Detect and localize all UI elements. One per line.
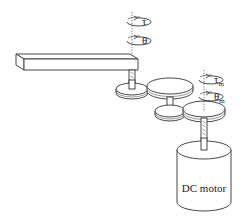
motor-angle-subscript: m <box>219 97 225 105</box>
output-torque-rotation-icon <box>127 16 151 26</box>
gear-3 <box>155 105 185 121</box>
arm-link <box>16 54 138 70</box>
motor-shaft <box>201 118 207 140</box>
motor-label: DC motor <box>182 182 227 194</box>
output-angle-label: θ <box>142 34 147 46</box>
motor-torque-subscript: m <box>218 80 224 88</box>
gear-train-diagram: τ θ τm θm DC motor <box>0 0 246 220</box>
dc-motor <box>177 141 231 211</box>
motor-torque-label: τm <box>214 73 224 88</box>
output-torque-label: τ <box>142 15 147 27</box>
gear-2 <box>147 78 193 99</box>
output-angle-rotation-icon <box>127 35 151 45</box>
